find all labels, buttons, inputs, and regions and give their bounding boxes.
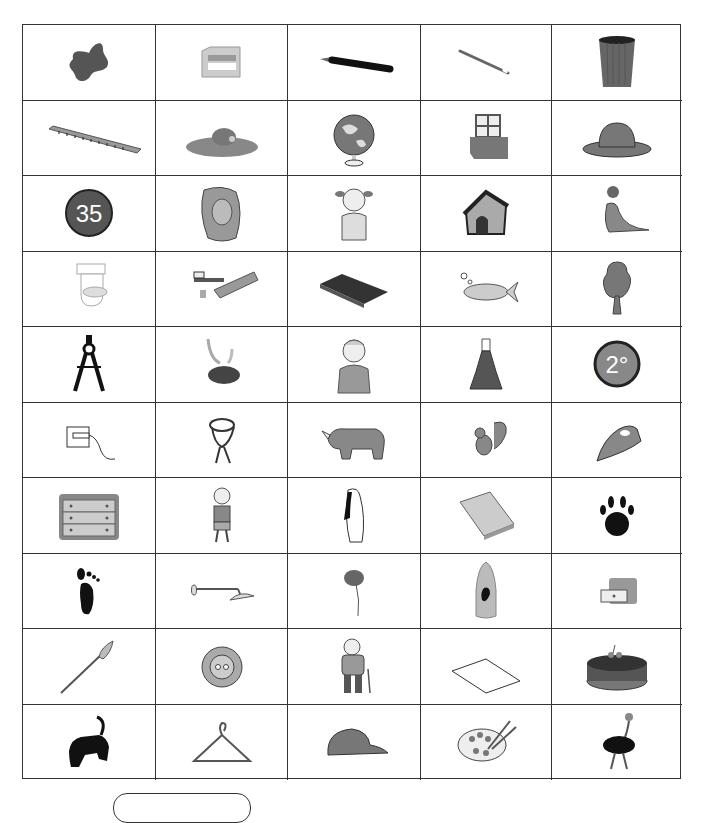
grid-cell: man: [288, 327, 421, 403]
fish-icon: [438, 258, 534, 320]
answer-box[interactable]: [113, 793, 251, 823]
dress-icon: [438, 333, 534, 395]
scarf-icon: [174, 409, 270, 471]
stain-icon: [41, 31, 137, 93]
panther-icon: [41, 711, 137, 773]
grid-cell: drawer: [552, 554, 682, 630]
shower-icon: [174, 560, 270, 622]
grid-cell: 2° 2 degrees: [552, 327, 682, 403]
grid-cell: stain: [23, 25, 156, 101]
grid-cell: window box: [421, 101, 552, 177]
grid-cell: scarf: [156, 403, 288, 479]
man-icon: [306, 333, 402, 395]
grid-cell: cake: [552, 629, 682, 705]
plug-icon: [41, 409, 137, 471]
grid-cell: ruler: [23, 101, 156, 177]
boy-icon: [174, 484, 270, 546]
lion-icon: [174, 182, 270, 244]
notebook-icon: [438, 484, 534, 546]
svg-text:35: 35: [76, 200, 103, 227]
grid-cell: mole: [156, 101, 288, 177]
grid-cell: kennel: [421, 176, 552, 252]
grid-cell: panther: [23, 705, 156, 781]
grid-cell: chest of drawers: [23, 478, 156, 554]
book-icon: [306, 258, 402, 320]
ostrich-icon: [569, 711, 665, 773]
svg-text:2°: 2°: [606, 351, 629, 378]
window-box-icon: [438, 107, 534, 169]
paw-icon: [569, 484, 665, 546]
seal-icon: [569, 182, 665, 244]
grid-cell: paw print: [552, 478, 682, 554]
grid-cell: notebook: [421, 478, 552, 554]
sharpener-icon: [174, 31, 270, 93]
grid-cell: globe: [288, 101, 421, 177]
grid-cell: penguin: [288, 478, 421, 554]
poppy-icon: [306, 560, 402, 622]
globe-icon: [306, 107, 402, 169]
grid-cell: rhinoceros: [288, 403, 421, 479]
girl-icon: [306, 182, 402, 244]
compass-icon: [41, 333, 137, 395]
grid-cell: plug: [23, 403, 156, 479]
paintbrush-icon: [41, 635, 137, 697]
iron-icon: [569, 409, 665, 471]
grid-cell: dress: [421, 327, 552, 403]
grid-cell: book: [288, 252, 421, 328]
grandfather-icon: [306, 635, 402, 697]
toilet-icon: [41, 258, 137, 320]
grid-cell: shower: [156, 554, 288, 630]
grid-cell: hanger: [156, 705, 288, 781]
grid-cell: ostrich: [552, 705, 682, 781]
squirrel-icon: [438, 409, 534, 471]
toothpaste-icon: [174, 258, 270, 320]
grid-cell: tree: [552, 252, 682, 328]
grid-cell: boy: [156, 478, 288, 554]
grid-cell: sharpener: [156, 25, 288, 101]
penguin-icon: [306, 484, 402, 546]
tree-icon: [569, 258, 665, 320]
needle-icon: [438, 31, 534, 93]
grid-cell: footprint: [23, 554, 156, 630]
grid-cell: fish: [421, 252, 552, 328]
shampoo-icon: [438, 560, 534, 622]
grid-cell: bin: [552, 25, 682, 101]
pencil-icon: [306, 31, 402, 93]
cap-icon: [306, 711, 402, 773]
grid-cell: paintbrush: [23, 629, 156, 705]
grid-cell: toothbrush and toothpaste: [156, 252, 288, 328]
grid-cell: smoke: [156, 327, 288, 403]
grid-cell: lion: [156, 176, 288, 252]
grid-cell: needle: [421, 25, 552, 101]
picture-grid: stain sharpener pencil needle bin ruler …: [22, 24, 681, 779]
hanger-icon: [174, 711, 270, 773]
paper-icon: [438, 635, 534, 697]
bin-icon: [569, 31, 665, 93]
drawer-icon: [569, 560, 665, 622]
grid-cell: 35 35: [23, 176, 156, 252]
cake-icon: [569, 635, 665, 697]
mole-icon: [174, 107, 270, 169]
grid-cell: button: [156, 629, 288, 705]
grid-cell: shampoo: [421, 554, 552, 630]
footprint-icon: [41, 560, 137, 622]
degrees-icon: 2°: [569, 333, 665, 395]
grid-cell: poppy: [288, 554, 421, 630]
grid-cell: squirrel: [421, 403, 552, 479]
grid-cell: cap: [288, 705, 421, 781]
palette-icon: [438, 711, 534, 773]
ruler-icon: [29, 107, 149, 169]
drawers-icon: [41, 484, 137, 546]
grid-cell: palette: [421, 705, 552, 781]
grid-cell: iron: [552, 403, 682, 479]
grid-cell: seal: [552, 176, 682, 252]
grid-cell: grandfather: [288, 629, 421, 705]
hat-icon: [569, 107, 665, 169]
grid-cell: toilet: [23, 252, 156, 328]
grid-cell: girl: [288, 176, 421, 252]
grid-cell: pencil: [288, 25, 421, 101]
grid-cell: paper: [421, 629, 552, 705]
kennel-icon: [438, 182, 534, 244]
smoke-icon: [174, 333, 270, 395]
rhino-icon: [306, 409, 402, 471]
